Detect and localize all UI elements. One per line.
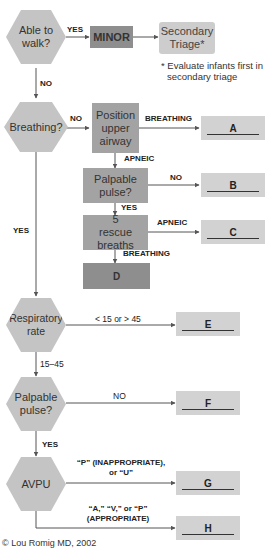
outcome-b-underline [207,191,259,192]
secondary-triage-node: Secondary Triage* [159,22,215,54]
walk-yes-label: YES [67,25,83,35]
avpu-appropriate-line-1: “A,” “V,” or “P” [68,504,168,514]
outcome-c: C [201,220,265,244]
rescue-apneic-label: APNEIC [157,218,187,228]
outcome-a-label: A [229,123,236,134]
outcome-g: G [176,471,240,495]
outcome-c-label: C [229,227,236,238]
position-airway-node: Position upper airway [92,103,139,153]
airway-breathing-label: BREATHING [145,114,192,124]
outcome-h-underline [182,534,234,535]
breathing-yes-label: YES [13,226,29,236]
rr-abnormal-label: < 15 or > 45 [95,314,141,324]
pulse1-yes-label: YES [121,203,137,213]
outcome-a-underline [207,134,259,135]
outcome-f-underline [182,409,234,410]
palpable-pulse-1-node: Palpable pulse? [83,168,148,203]
footnote-line-1: * Evaluate infants first in [161,60,263,71]
outcome-g-underline [182,489,234,490]
airway-apneic-label: APNEIC [124,154,154,164]
copyright: © Lou Romig MD, 2002 [2,538,96,548]
outcome-h: H [176,516,240,540]
avpu-appropriate-label: “A,” “V,” or “P” (APPROPRIATE) [68,504,168,524]
outcome-c-underline [207,238,259,239]
outcome-b-label: B [229,180,236,191]
walk-no-label: NO [40,79,52,89]
outcome-f: F [176,391,240,415]
outcome-h-label: H [204,523,211,534]
pulse1-no-label: NO [170,173,182,183]
pulse2-yes-label: YES [42,440,58,450]
outcome-e-underline [182,330,234,331]
footnote-line-2: secondary triage [161,71,263,82]
footnote: * Evaluate infants first in secondary tr… [161,60,263,82]
outcome-d-node: D [83,263,150,289]
avpu-inappropriate-line-2: or “U” [68,468,174,478]
breathing-no-label: NO [70,114,82,124]
rescue-breathing-label: BREATHING [123,249,170,259]
avpu-inappropriate-label: “P” (INAPPROPRIATE), or “U” [68,458,174,478]
outcome-e-label: E [205,319,212,330]
avpu-inappropriate-line-1: “P” (INAPPROPRIATE), [68,458,174,468]
pulse2-no-label: NO [113,391,126,401]
avpu-appropriate-line-2: (APPROPRIATE) [68,514,168,524]
rescue-breaths-node: 5 rescue breaths [83,215,148,250]
outcome-a: A [201,116,265,140]
outcome-b: B [201,173,265,197]
outcome-g-label: G [204,478,212,489]
outcome-f-label: F [205,398,211,409]
rr-normal-label: 15–45 [40,359,64,369]
outcome-e: E [176,312,240,336]
minor-node: MINOR [90,26,133,48]
